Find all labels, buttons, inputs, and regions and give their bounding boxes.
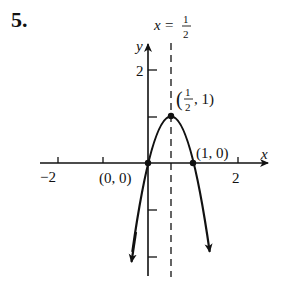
- axis-of-symmetry-label: x = 1 2: [153, 13, 191, 40]
- x-tick-label-pos2: 2: [232, 170, 240, 186]
- x-tick-label-neg2: −2: [40, 169, 56, 185]
- graph: y x −2 2 2 x = 1 2 ( 1 2 , 1) (0, 0) (1,…: [0, 0, 289, 299]
- asymptote-num: 1: [183, 13, 189, 25]
- x-axis-label: x: [260, 146, 268, 162]
- asymptote-var: x: [153, 17, 161, 33]
- asymptote-den: 2: [183, 28, 189, 40]
- vertex-num: 1: [185, 86, 191, 98]
- y-axis-label: y: [134, 38, 143, 54]
- parabola-curve: [132, 116, 209, 251]
- vertex-den: 2: [185, 101, 191, 113]
- asymptote-eq: =: [165, 17, 173, 33]
- vertex-open-paren: (: [176, 88, 183, 111]
- vertex-label: ( 1 2 , 1): [176, 86, 214, 113]
- origin-label: (0, 0): [99, 170, 132, 187]
- origin-point: [145, 160, 151, 166]
- x-axis: [40, 157, 268, 163]
- vertex-point: [168, 113, 174, 119]
- vertex-rest: , 1): [194, 91, 214, 108]
- root-label: (1, 0): [196, 145, 229, 162]
- y-tick-label-pos2: 2: [136, 63, 144, 79]
